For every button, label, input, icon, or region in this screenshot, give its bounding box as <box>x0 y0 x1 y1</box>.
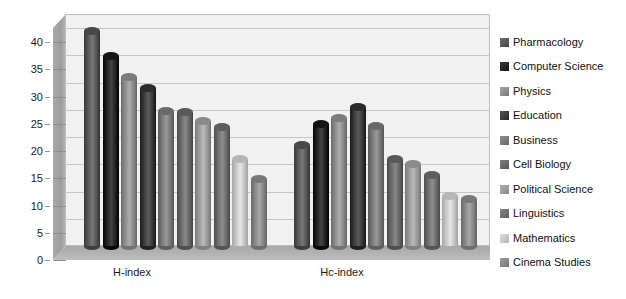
legend-item[interactable]: Business <box>500 128 626 153</box>
y-axis-tick-label: 5 <box>37 227 43 239</box>
bar-top-ellipse <box>251 175 267 183</box>
legend-item[interactable]: Physics <box>500 79 626 104</box>
bar <box>331 114 347 246</box>
gridline-side <box>53 206 66 207</box>
legend-swatch-icon <box>500 160 509 169</box>
legend-item-label: Pharmacology <box>513 37 583 48</box>
bar <box>405 160 421 246</box>
bar <box>294 141 310 246</box>
legend-swatch-icon <box>500 234 509 243</box>
bar-body <box>405 164 421 246</box>
legend-item-label: Education <box>513 110 562 121</box>
y-axis-tick-label: 20 <box>31 145 43 157</box>
legend-item[interactable]: Mathematics <box>500 226 626 251</box>
y-axis-tick-mark <box>45 151 50 152</box>
legend-swatch-icon <box>500 87 509 96</box>
bar-top-ellipse <box>442 192 458 200</box>
bar-top-ellipse <box>140 84 156 92</box>
legend-item[interactable]: Education <box>500 104 626 129</box>
legend-item-label: Linguistics <box>513 208 564 219</box>
bar <box>232 155 248 246</box>
bar-group-h-index <box>84 28 269 246</box>
bar-body <box>177 112 193 246</box>
bar-body <box>313 124 329 246</box>
legend-swatch-icon <box>500 209 509 218</box>
y-axis-tick-mark <box>45 97 50 98</box>
bar-top-ellipse <box>158 107 174 115</box>
y-axis-tick-mark <box>45 178 50 179</box>
bar-body <box>294 145 310 246</box>
gridline-side <box>53 97 66 98</box>
bar-top-ellipse <box>214 123 230 131</box>
bar-body <box>424 175 440 246</box>
x-axis-tick-label: Hc-index <box>282 266 402 278</box>
y-axis-tick-label: 35 <box>31 63 43 75</box>
y-axis-tick-mark <box>45 42 50 43</box>
bar <box>195 117 211 246</box>
bar-body <box>387 159 403 246</box>
bar <box>461 195 477 246</box>
bar-body <box>461 199 477 246</box>
bar-body <box>158 111 174 246</box>
bar-series-container <box>66 28 490 246</box>
legend-swatch-icon <box>500 136 509 145</box>
y-axis-tick-mark <box>45 206 50 207</box>
y-axis-tick-label: 25 <box>31 118 43 130</box>
bar <box>442 192 458 246</box>
bar-top-ellipse <box>121 73 137 81</box>
bar-top-ellipse <box>461 195 477 203</box>
bar-top-ellipse <box>84 27 100 35</box>
y-axis-tick-label: 30 <box>31 91 43 103</box>
bar-body <box>195 121 211 246</box>
bar-body <box>350 107 366 246</box>
legend-item[interactable]: Political Science <box>500 177 626 202</box>
legend-swatch-icon <box>500 38 509 47</box>
bar-top-ellipse <box>350 103 366 111</box>
chart-legend: PharmacologyComputer SciencePhysicsEduca… <box>500 30 626 275</box>
y-axis-tick-mark <box>45 69 50 70</box>
legend-item-label: Cell Biology <box>513 159 571 170</box>
legend-item-label: Business <box>513 135 558 146</box>
plot-area <box>53 14 490 260</box>
bar <box>387 155 403 246</box>
legend-item-label: Physics <box>513 86 551 97</box>
legend-item[interactable]: Cinema Studies <box>500 251 626 276</box>
y-axis-tick-label: 10 <box>31 200 43 212</box>
gridline-side <box>53 151 66 152</box>
bar <box>158 107 174 246</box>
bar <box>424 171 440 246</box>
bar-chart: 4035302520151050 H-indexHc-index Pharmac… <box>0 0 626 299</box>
gridline-side <box>53 260 66 261</box>
gridline-side <box>53 178 66 179</box>
legend-item[interactable]: Linguistics <box>500 202 626 227</box>
bar-body <box>103 56 119 246</box>
y-axis-tick-mark <box>45 124 50 125</box>
bar <box>350 103 366 246</box>
bar <box>313 120 329 246</box>
bar-group-hc-index <box>294 28 479 246</box>
legend-item[interactable]: Computer Science <box>500 55 626 80</box>
legend-swatch-icon <box>500 258 509 267</box>
legend-item[interactable]: Pharmacology <box>500 30 626 55</box>
bar-top-ellipse <box>195 117 211 125</box>
legend-item[interactable]: Cell Biology <box>500 153 626 178</box>
bar <box>140 84 156 246</box>
y-axis-tick-label: 40 <box>31 36 43 48</box>
gridline-side <box>53 124 66 125</box>
legend-swatch-icon <box>500 62 509 71</box>
bar-body <box>232 159 248 246</box>
bar-top-ellipse <box>387 155 403 163</box>
bar-top-ellipse <box>331 114 347 122</box>
bar <box>121 73 137 246</box>
y-axis-tick-label: 15 <box>31 172 43 184</box>
legend-swatch-icon <box>500 111 509 120</box>
bar-body <box>121 77 137 246</box>
x-axis-tick-label: H-index <box>72 266 192 278</box>
y-axis-tick-label: 0 <box>37 254 43 266</box>
bar-top-ellipse <box>424 171 440 179</box>
bar <box>368 122 384 246</box>
y-axis: 4035302520151050 <box>0 0 53 299</box>
gridline-side <box>53 42 66 43</box>
gridline-side <box>53 69 66 70</box>
bar-body <box>251 179 267 246</box>
